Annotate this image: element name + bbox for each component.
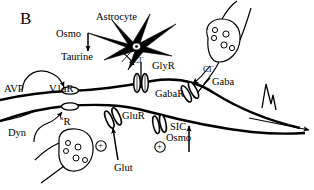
action-potential-trace [262, 84, 276, 110]
panel-label: B [20, 10, 31, 27]
chloride-glyr-label: Cl- [133, 54, 144, 65]
gaba-label: Gaba [212, 77, 234, 88]
axon-propagation-arrow [249, 118, 309, 130]
dyn-to-kappar-arrow [34, 112, 62, 142]
v1ar-label: V1aR [49, 84, 74, 95]
glur-label: GluR [122, 111, 145, 122]
chloride-gabar-label: Cl- [203, 63, 214, 74]
glut-plus-label: + [98, 141, 103, 150]
sic-label: SIC [170, 122, 186, 133]
glut-terminal [35, 129, 93, 183]
glyr-label: GlyR [152, 61, 175, 72]
gabar-label: GabaR [155, 89, 184, 100]
avp-label: AVP [4, 84, 24, 95]
kappa-receptor [62, 103, 79, 110]
glut-label: Glut [114, 163, 133, 174]
kappa-receptor-label: κR [60, 115, 71, 127]
astrocyte-label: Astrocyte [96, 12, 137, 23]
sic-plus-label: + [157, 142, 162, 151]
osmo-bottom-label: Osmo [166, 133, 191, 144]
dendrite-upper-membrane [0, 80, 300, 129]
figure-panel: B Astrocyte Osmo Taurine Cl- GlyR Cl- Ga… [0, 0, 314, 190]
glur-channel [103, 107, 123, 130]
osmo-top-label: Osmo [56, 29, 81, 40]
dyn-label: Dyn [8, 128, 26, 139]
taurine-label: Taurine [61, 52, 93, 63]
glut-to-glur-arrow [113, 128, 118, 160]
